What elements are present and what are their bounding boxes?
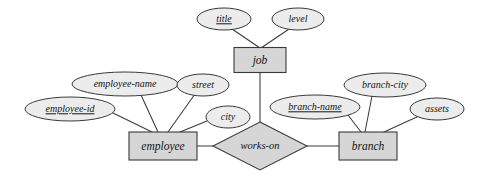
attr-label: city	[221, 111, 236, 122]
attr-label: branch-name	[288, 101, 342, 112]
edge-street-employee	[168, 94, 195, 132]
edge-employee-id-employee	[113, 113, 152, 132]
edge-level-job	[261, 29, 289, 48]
edge-city-employee	[180, 121, 207, 132]
attribute-street[interactable]: street	[177, 74, 229, 96]
attribute-employee-name[interactable]: employee-name	[72, 72, 178, 96]
attribute-title[interactable]: title	[197, 8, 251, 30]
edge-assets-branch	[384, 116, 419, 132]
entity-job[interactable]: job	[234, 48, 286, 73]
edge-branch-city-branch	[365, 96, 372, 132]
attr-label: branch-city	[362, 79, 409, 90]
attribute-level[interactable]: level	[272, 8, 324, 30]
attr-label: employee-name	[94, 78, 157, 89]
attr-label: level	[289, 13, 308, 24]
node-layer: jobemployeebranchworks-ontitlelevelemplo…	[25, 8, 464, 170]
entity-label: job	[251, 54, 268, 67]
rel-label: works-on	[240, 140, 279, 151]
attribute-city[interactable]: city	[206, 106, 250, 128]
attr-label: assets	[425, 103, 449, 114]
edge-title-job	[232, 29, 260, 48]
entity-label: branch	[352, 140, 385, 152]
attribute-employee-id[interactable]: employee-id	[25, 97, 115, 121]
attribute-assets[interactable]: assets	[410, 98, 464, 120]
er-diagram-canvas: jobemployeebranchworks-ontitlelevelemplo…	[0, 0, 479, 175]
entity-branch[interactable]: branch	[339, 132, 397, 160]
edge-employee-name-employee	[141, 95, 158, 132]
attribute-branch-city[interactable]: branch-city	[344, 73, 426, 97]
edge-branch-name-branch	[348, 115, 361, 132]
attr-label: street	[192, 79, 214, 90]
entity-employee[interactable]: employee	[129, 132, 197, 160]
attr-label: title	[216, 13, 232, 24]
attr-label: employee-id	[46, 103, 96, 114]
er-diagram-svg: jobemployeebranchworks-ontitlelevelemplo…	[0, 0, 479, 175]
relationship-works-on[interactable]: works-on	[213, 122, 307, 170]
attribute-branch-name[interactable]: branch-name	[270, 95, 360, 119]
entity-label: employee	[141, 140, 184, 153]
